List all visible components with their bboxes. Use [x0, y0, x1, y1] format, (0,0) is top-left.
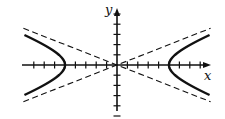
y-axis-arrowhead [114, 8, 120, 16]
axes [22, 8, 211, 116]
hyperbola-diagram: x y [0, 0, 225, 119]
x-axis-label: x [204, 68, 212, 83]
y-axis-label: y [104, 2, 113, 17]
